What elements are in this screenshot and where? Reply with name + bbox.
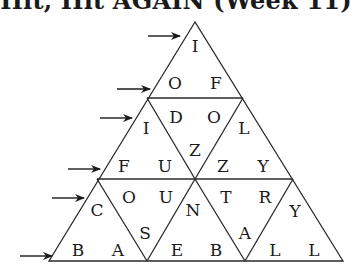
grid-letter: U bbox=[159, 189, 173, 206]
grid-letter: I bbox=[143, 120, 150, 137]
grid-letter: S bbox=[139, 225, 151, 242]
grid-letter: D bbox=[169, 109, 183, 126]
grid-letter: F bbox=[118, 158, 130, 175]
grid-letter: B bbox=[210, 242, 223, 259]
grid-letter: C bbox=[90, 202, 103, 219]
grid-letter: F bbox=[210, 75, 222, 92]
grid-letter: A bbox=[112, 242, 124, 259]
grid-letter: L bbox=[269, 242, 280, 259]
grid-letter: I bbox=[192, 38, 199, 55]
grid-letter: L bbox=[238, 120, 249, 137]
grid-letter: T bbox=[220, 189, 231, 206]
grid-letter: Y bbox=[257, 158, 268, 175]
grid-letter: O bbox=[207, 109, 221, 126]
grid-letter: Z bbox=[217, 158, 229, 175]
grid-letter: L bbox=[308, 242, 319, 259]
grid-letter: B bbox=[72, 242, 85, 259]
grid-letter: O bbox=[122, 189, 136, 206]
grid-letter: N bbox=[186, 202, 201, 219]
grid-letter: Z bbox=[189, 142, 201, 159]
grid-letter: Y bbox=[289, 203, 300, 220]
grid-letter: A bbox=[239, 225, 251, 242]
grid-letter: E bbox=[171, 242, 183, 259]
grid-letter: R bbox=[259, 189, 272, 206]
triangle-grid bbox=[0, 0, 352, 279]
grid-letter: U bbox=[158, 158, 172, 175]
grid-letter: O bbox=[168, 75, 182, 92]
